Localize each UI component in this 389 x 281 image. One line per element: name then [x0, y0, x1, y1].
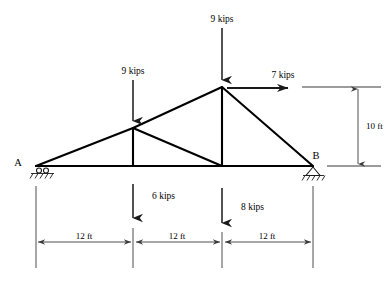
truss-diagram: 9 kips 9 kips 7 kips 6 kips 8 kips A B 1… — [0, 0, 389, 281]
label-node-a: A — [14, 157, 22, 168]
hatch-a-5 — [50, 174, 53, 179]
label-span-2: 12 ft — [169, 231, 186, 241]
label-height-dimension: 10 ft — [366, 121, 383, 131]
label-span-1: 12 ft — [76, 231, 93, 241]
truss-members — [36, 87, 313, 166]
hatch-b-1 — [302, 176, 305, 181]
label-span-3: 12 ft — [259, 231, 276, 241]
support-a — [30, 168, 54, 179]
hatch-a-2 — [35, 174, 38, 179]
label-lower-left-load: 6 kips — [152, 191, 175, 201]
label-upper-left-load: 9 kips — [122, 66, 145, 76]
roller-wheel-left — [37, 168, 42, 173]
member-left-diagonal — [133, 128, 222, 166]
roller-wheel-right — [44, 168, 49, 173]
label-horizontal-apex-load: 7 kips — [272, 70, 295, 80]
truss-diagram-canvas: 9 kips 9 kips 7 kips 6 kips 8 kips A B 1… — [0, 0, 389, 281]
hatch-a-1 — [30, 174, 33, 179]
support-b — [302, 167, 325, 181]
label-lower-mid-load: 8 kips — [241, 202, 264, 212]
label-node-b: B — [312, 150, 319, 161]
pin-triangle-b — [306, 167, 320, 176]
hatch-b-4 — [317, 176, 320, 181]
hatch-a-4 — [45, 174, 48, 179]
member-left-joint-to-apex — [133, 87, 222, 128]
label-top-apex-load: 9 kips — [211, 14, 234, 24]
hatch-b-3 — [312, 176, 315, 181]
member-a-to-left-joint — [36, 128, 133, 166]
hatch-a-3 — [40, 174, 43, 179]
hatch-b-2 — [307, 176, 310, 181]
hatch-b-5 — [322, 176, 325, 181]
member-apex-to-b — [222, 87, 313, 166]
